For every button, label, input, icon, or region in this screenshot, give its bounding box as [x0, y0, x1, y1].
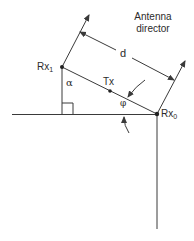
rx0-text: Rx [161, 108, 173, 119]
rx0-point [155, 112, 159, 116]
phi-angle-arrow [124, 117, 129, 133]
d-dimension-left [80, 32, 116, 50]
antenna-director-label: Antenna director [128, 11, 178, 35]
right-angle-marker [62, 103, 73, 114]
director-arrow-rx0 [157, 61, 185, 114]
rx1-subscript: 1 [49, 66, 53, 73]
pointer-arrow-to-antenna-line [128, 80, 145, 97]
tx-label: Tx [103, 77, 114, 87]
rx0-label: Rx0 [161, 109, 177, 120]
phi-label: φ [120, 99, 126, 108]
rx1-point [60, 65, 64, 69]
antenna-geometry-diagram: Antenna director Rx1 Rx0 Tx d α φ [0, 0, 194, 241]
d-dimension-right [132, 58, 174, 80]
diagram-graphics [0, 0, 194, 241]
rx0-subscript: 0 [173, 113, 177, 120]
tx-point [108, 89, 112, 93]
title-line-2: director [128, 23, 178, 35]
director-arrow-rx1 [62, 15, 89, 67]
title-line-1: Antenna [128, 11, 178, 23]
d-label: d [120, 48, 126, 59]
alpha-label: α [66, 78, 73, 88]
rx1-label: Rx1 [37, 62, 53, 73]
rx1-text: Rx [37, 61, 49, 72]
